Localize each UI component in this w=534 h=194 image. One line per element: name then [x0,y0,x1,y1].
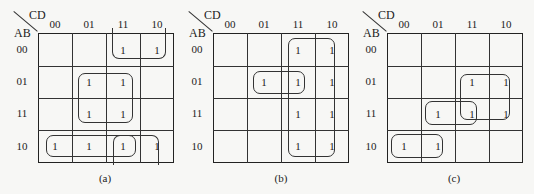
grouping-loop [78,73,133,123]
grouping-loop [253,71,305,94]
col-header: 00 [213,19,247,30]
cell [38,34,72,66]
col-header: 11 [281,19,315,30]
row-header: 10 [10,141,34,152]
cell [213,98,247,130]
cell [455,34,489,66]
col-header: 01 [421,19,455,30]
row-header: 00 [10,44,34,55]
cell [387,34,421,66]
grouping-loop [112,28,166,59]
cell [38,66,72,98]
row-header: 01 [359,76,383,87]
cell [421,34,455,66]
col-header: 00 [38,19,72,30]
col-header: 11 [455,19,489,30]
row-header: 10 [185,141,209,152]
cell [455,130,489,162]
cell [213,66,247,98]
grouping-loop [391,134,443,158]
grouping-loop [425,101,477,125]
cell [387,66,421,98]
row-variable-label: AB [189,27,206,39]
cell [213,130,247,162]
col-header: 01 [247,19,281,30]
col-header: 10 [489,19,523,30]
col-header: 10 [315,19,349,30]
grouping-loop [288,38,335,157]
cell [72,34,106,66]
cell [140,98,174,130]
cell [213,34,247,66]
col-header: 00 [387,19,421,30]
cell [247,130,281,162]
figure-caption: (b) [261,172,301,184]
karnaugh-map-b: CD AB 00 01 11 10 00 01 11 10 1 1 1 1 1 … [175,0,353,194]
row-header: 00 [359,44,383,55]
cell [140,66,174,98]
karnaugh-map-a: CD AB 00 01 11 10 00 01 11 10 1 1 1 1 1 … [0,0,178,194]
cell [247,98,281,130]
row-header: 11 [185,108,209,119]
row-variable-label: AB [14,27,31,39]
col-header: 01 [72,19,106,30]
karnaugh-map-c: CD AB 00 01 11 10 00 01 11 10 1 1 1 1 1 … [349,0,527,194]
row-variable-label: AB [363,27,380,39]
cell [489,34,523,66]
row-header: 01 [185,76,209,87]
grouping-loop [113,135,159,165]
figure-caption: (c) [434,172,474,184]
row-header: 11 [10,108,34,119]
cell [38,98,72,130]
figure-caption: (a) [85,172,125,184]
cell [421,66,455,98]
row-header: 11 [359,108,383,119]
cell [247,34,281,66]
row-header: 01 [10,76,34,87]
cell [489,130,523,162]
cell [387,98,421,130]
row-header: 10 [359,141,383,152]
row-header: 00 [185,44,209,55]
